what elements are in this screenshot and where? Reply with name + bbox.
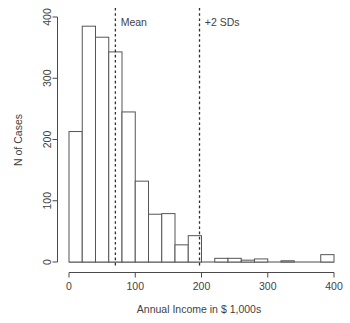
reference-labels-group: Mean+2 SDs: [121, 16, 240, 28]
histogram-bar: [175, 245, 188, 262]
x-axis-title: Annual Income in $ 1,000s: [137, 303, 261, 315]
y-axis-title: N of Cases: [12, 114, 24, 166]
chart-canvas: 0100200300400 0100200300400 Mean+2 SDs A…: [0, 0, 350, 323]
y-axis-tick-label: 300: [41, 69, 53, 87]
histogram-bar: [162, 214, 175, 262]
histogram-bar: [135, 181, 148, 262]
histogram-bar: [241, 260, 254, 262]
reference-label-plus-2-sd: +2 SDs: [205, 16, 240, 28]
y-axis-ticks: 0100200300400: [41, 8, 58, 265]
histogram-bar: [281, 261, 294, 262]
y-axis: 0100200300400: [41, 8, 58, 265]
plot-area: [69, 26, 334, 262]
reference-label-mean: Mean: [121, 16, 147, 28]
x-axis-ticks: 0100200300400: [66, 273, 343, 293]
y-axis-tick-label: 400: [41, 8, 53, 26]
x-axis-tick-label: 0: [66, 280, 72, 292]
histogram-bar: [109, 52, 122, 262]
histogram-chart: 0100200300400 0100200300400 Mean+2 SDs A…: [0, 0, 350, 323]
histogram-bar: [321, 255, 334, 262]
histogram-bar: [82, 26, 95, 262]
histogram-bar: [69, 132, 82, 262]
x-axis-tick-label: 200: [193, 280, 211, 292]
y-axis-tick-label: 0: [41, 259, 53, 265]
x-axis: 0100200300400: [66, 273, 343, 293]
histogram-bar: [96, 37, 109, 262]
histogram-bar: [228, 258, 241, 262]
histogram-bar: [149, 214, 162, 262]
x-axis-tick-label: 100: [126, 280, 144, 292]
bars-group: [69, 26, 334, 262]
x-axis-tick-label: 400: [325, 280, 343, 292]
y-axis-tick-label: 100: [41, 192, 53, 210]
y-axis-tick-label: 200: [41, 131, 53, 149]
histogram-bar: [122, 112, 135, 262]
histogram-bar: [255, 259, 268, 262]
x-axis-tick-label: 300: [259, 280, 277, 292]
histogram-bar: [215, 258, 228, 262]
